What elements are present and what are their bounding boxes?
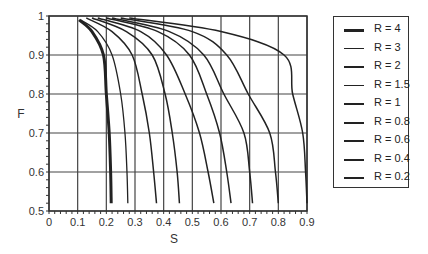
y-tick-label: 1 bbox=[38, 10, 44, 22]
x-axis-title: S bbox=[170, 232, 178, 246]
legend-item: R = 3 bbox=[334, 40, 408, 58]
legend-line-swatch bbox=[344, 140, 364, 142]
x-tick-label: 0.5 bbox=[185, 216, 200, 228]
legend-label: R = 0.2 bbox=[374, 170, 410, 182]
legend-label: R = 0.4 bbox=[374, 152, 410, 164]
curve-1 bbox=[98, 18, 214, 203]
legend-item: R = 1.5 bbox=[334, 77, 408, 95]
y-axis-title: F bbox=[17, 107, 24, 121]
y-tick-label: 0.6 bbox=[29, 166, 44, 178]
x-tick-label: 0.9 bbox=[299, 216, 314, 228]
y-tick-label: 0.8 bbox=[29, 88, 44, 100]
y-tick-label: 0.7 bbox=[29, 127, 44, 139]
x-tick-label: 0.2 bbox=[99, 216, 114, 228]
y-tick-label: 0.9 bbox=[29, 49, 44, 61]
curve-0-6 bbox=[112, 18, 252, 203]
legend-line-swatch bbox=[344, 159, 364, 161]
legend-item: R = 0.8 bbox=[334, 114, 408, 132]
x-tick-label: 0.4 bbox=[156, 216, 171, 228]
legend-item: R = 2 bbox=[334, 58, 408, 76]
legend-item: R = 0.4 bbox=[334, 151, 408, 169]
x-tick-label: 0.6 bbox=[213, 216, 228, 228]
legend-line-swatch bbox=[344, 103, 364, 105]
x-tick-labels: 00.10.20.30.40.50.60.70.80.9 bbox=[46, 216, 315, 228]
legend-line-swatch bbox=[344, 177, 364, 179]
x-tick-label: 0.8 bbox=[271, 216, 286, 228]
legend-line-swatch bbox=[344, 29, 364, 32]
legend-item: R = 0.2 bbox=[334, 169, 408, 187]
data-curves bbox=[79, 18, 307, 203]
legend-item: R = 4 bbox=[334, 21, 408, 39]
legend-item: R = 0.6 bbox=[334, 132, 408, 150]
legend-item: R = 1 bbox=[334, 95, 408, 113]
curve-1-5 bbox=[92, 18, 179, 203]
legend-label: R = 2 bbox=[374, 59, 401, 71]
legend-label: R = 0.8 bbox=[374, 115, 410, 127]
x-tick-label: 0.7 bbox=[242, 216, 257, 228]
legend-line-swatch bbox=[344, 66, 364, 68]
legend-label: R = 4 bbox=[374, 22, 401, 34]
y-tick-labels: 0.50.60.70.80.91 bbox=[29, 10, 44, 217]
legend: R = 4R = 3R = 2R = 1.5R = 1R = 0.8R = 0.… bbox=[333, 16, 409, 188]
x-tick-label: 0 bbox=[46, 216, 52, 228]
curve-3 bbox=[81, 20, 128, 203]
x-tick-label: 0.3 bbox=[127, 216, 142, 228]
curve-2 bbox=[86, 18, 156, 203]
legend-label: R = 1 bbox=[374, 96, 401, 108]
y-tick-label: 0.5 bbox=[29, 205, 44, 217]
x-tick-label: 0.1 bbox=[70, 216, 85, 228]
legend-label: R = 3 bbox=[374, 41, 401, 53]
legend-line-swatch bbox=[344, 122, 364, 124]
legend-label: R = 0.6 bbox=[374, 133, 410, 145]
legend-line-swatch bbox=[344, 85, 364, 87]
legend-label: R = 1.5 bbox=[374, 78, 410, 90]
legend-line-swatch bbox=[344, 48, 364, 49]
